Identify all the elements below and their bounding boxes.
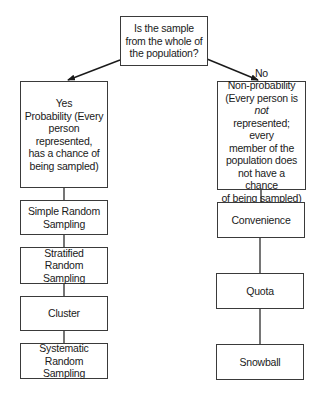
non-probability-line-4: represented; every [221, 117, 302, 142]
non-probability-line-3: (Every person is not [221, 92, 302, 117]
snowball-label: Snowball [239, 356, 280, 369]
non-probability-line-6: population does [221, 154, 302, 167]
snowball-box: Snowball [216, 344, 304, 380]
cluster-box: Cluster [20, 296, 108, 331]
probability-box: Yes Probability (Every person represente… [20, 81, 108, 188]
cluster-label: Cluster [48, 307, 80, 320]
root-line-2: from the whole of [125, 35, 202, 48]
simple-random-line-1: Simple Random [28, 205, 100, 218]
systematic-line-1: Systematic [24, 342, 104, 355]
non-probability-line-5: member of the [221, 142, 302, 155]
convenience-box: Convenience [217, 202, 305, 238]
root-line-1: Is the sample [125, 22, 202, 35]
simple-random-line-2: Sampling [28, 218, 100, 231]
probability-line-1: Yes [24, 97, 104, 110]
non-probability-line-2: Non-probability [221, 79, 302, 92]
quota-label: Quota [246, 285, 274, 298]
convenience-label: Convenience [231, 214, 290, 227]
non-probability-line-1: No [221, 67, 302, 80]
quota-box: Quota [216, 273, 304, 309]
systematic-random-sampling-box: Systematic Random Sampling [20, 343, 108, 379]
non-probability-line-3a: (Every person is [225, 92, 298, 104]
root-line-3: the population? [125, 47, 202, 60]
arrow-yes [68, 60, 120, 80]
non-probability-line-7: not have a chance [221, 167, 302, 192]
stratified-line-2: Sampling [24, 272, 104, 285]
systematic-line-2: Random Sampling [24, 355, 104, 380]
simple-random-sampling-box: Simple Random Sampling [20, 200, 108, 235]
probability-line-4: has a chance of [24, 147, 104, 160]
root-question-box: Is the sample from the whole of the popu… [120, 16, 208, 66]
stratified-random-sampling-box: Stratified Random Sampling [20, 247, 108, 284]
stratified-line-1: Stratified Random [24, 247, 104, 272]
italic-not: not [255, 104, 269, 116]
probability-line-3: person represented, [24, 122, 104, 147]
non-probability-box: No Non-probability (Every person is not … [217, 81, 306, 190]
probability-line-5: being sampled) [24, 160, 104, 173]
probability-line-2: Probability (Every [24, 110, 104, 123]
